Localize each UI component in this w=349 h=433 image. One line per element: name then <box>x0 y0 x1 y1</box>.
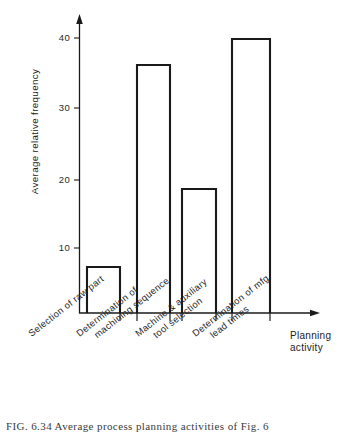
x-axis-title-line-2: activity <box>290 342 331 354</box>
y-axis-title: Average relative frequency <box>29 52 40 212</box>
bar-chart: 10 20 30 40 Average relative frequency P… <box>0 0 349 433</box>
x-axis-title: Planning activity <box>290 330 331 354</box>
y-tick-label-10: 10 <box>46 243 70 253</box>
figure-container: 10 20 30 40 Average relative frequency P… <box>0 0 349 433</box>
y-tick-label-20: 20 <box>46 175 70 185</box>
figure-caption: FIG. 6.34 Average process planning activ… <box>6 420 346 432</box>
y-tick-marks <box>74 38 79 248</box>
bar-series <box>87 39 270 313</box>
y-axis <box>76 14 83 313</box>
x-axis-title-line-1: Planning <box>290 330 331 342</box>
y-tick-label-30: 30 <box>46 103 70 113</box>
y-tick-label-40: 40 <box>46 33 70 43</box>
chart-canvas <box>0 0 349 433</box>
